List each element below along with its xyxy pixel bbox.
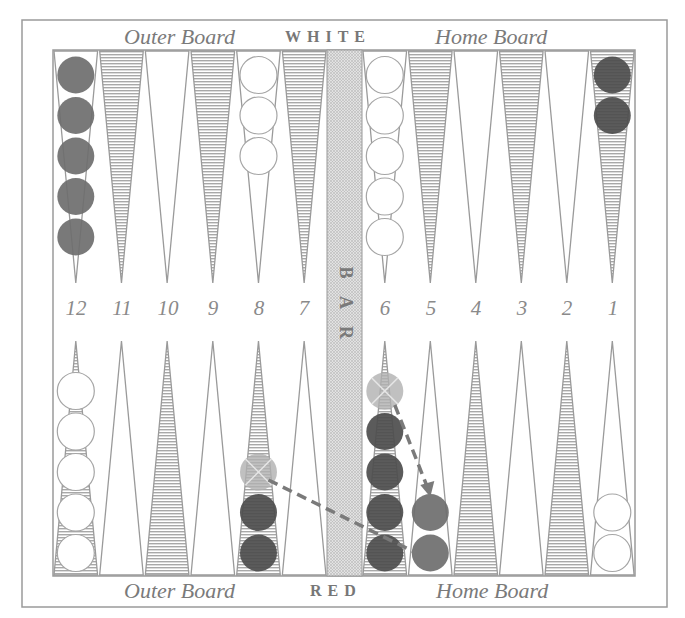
red_dark-checker xyxy=(594,57,631,94)
red_dark-checker xyxy=(366,494,403,531)
red-checker xyxy=(57,57,94,94)
red_dark-checker xyxy=(240,535,277,572)
red_dark-checker xyxy=(366,535,403,572)
white-checker xyxy=(240,57,277,94)
red-checker xyxy=(412,535,449,572)
red-checker xyxy=(57,178,94,215)
point-number-3: 3 xyxy=(499,296,545,321)
bar-letter-b: B xyxy=(335,259,356,287)
bottom-left-board-label: Outer Board xyxy=(124,578,235,604)
point-number-4: 4 xyxy=(453,296,499,321)
white-checker xyxy=(366,57,403,94)
point-number-10: 10 xyxy=(145,296,191,321)
top-side-label: WHITE xyxy=(285,28,371,46)
red-checker xyxy=(57,219,94,256)
red-checker xyxy=(412,494,449,531)
bar-letter-a: A xyxy=(335,289,356,317)
white-checker xyxy=(366,138,403,175)
white-checker xyxy=(240,138,277,175)
red_dark-checker xyxy=(366,454,403,491)
point-number-9: 9 xyxy=(190,296,236,321)
white-checker xyxy=(57,494,94,531)
point-number-6: 6 xyxy=(362,296,408,321)
bottom-right-board-label: Home Board xyxy=(436,578,548,604)
top-right-board-label: Home Board xyxy=(435,24,547,50)
red-checker xyxy=(57,97,94,134)
white-checker xyxy=(57,413,94,450)
red_dark-checker xyxy=(366,413,403,450)
point-number-8: 8 xyxy=(236,296,282,321)
point-number-12: 12 xyxy=(53,296,99,321)
top-left-board-label: Outer Board xyxy=(124,24,235,50)
point-number-1: 1 xyxy=(590,296,636,321)
white-checker xyxy=(57,535,94,572)
white-checker xyxy=(57,373,94,410)
white-checker xyxy=(366,97,403,134)
red_dark-checker xyxy=(240,494,277,531)
white-checker xyxy=(366,219,403,256)
point-number-7: 7 xyxy=(281,296,327,321)
bottom-side-label: RED xyxy=(310,582,362,600)
white-checker xyxy=(366,178,403,215)
red-checker xyxy=(57,138,94,175)
white-checker xyxy=(594,494,631,531)
white-checker xyxy=(57,454,94,491)
white-checker xyxy=(240,97,277,134)
white-checker xyxy=(594,535,631,572)
point-number-2: 2 xyxy=(544,296,590,321)
point-number-11: 11 xyxy=(99,296,145,321)
point-number-5: 5 xyxy=(408,296,454,321)
red_dark-checker xyxy=(594,97,631,134)
bar-letter-r: R xyxy=(335,319,356,347)
